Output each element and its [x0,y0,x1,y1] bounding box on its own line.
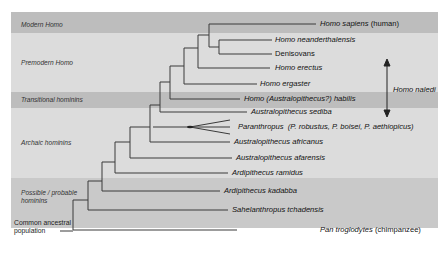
leaf-ardipithecus-kadabba: Ardipithecus kadabba [224,186,297,195]
leaf-homo-sapiens: Homo sapiens (human) [320,19,399,28]
leaf-homo-neanderthalensis: Homo neanderthalensis [275,35,355,44]
leaf-name: Australopithecus africanus [234,137,323,146]
leaf-homo-ergaster: Homo ergaster [260,79,310,88]
leaf-denisovans: Denisovans [275,49,315,58]
leaf-name: Pan troglodytes [320,225,373,234]
leaf-name: Ardipithecus kadabba [224,186,297,195]
leaf-name: Homo sapiens [320,19,369,28]
leaf-name: Denisovans [275,49,315,58]
leaf-name: Australopithecus sediba [251,107,332,116]
leaf-australopithecus-afarensis: Australopithecus afarensis [236,153,325,162]
leaf-paranthropus: Paranthropus (P. robustus, P. boisei, P.… [238,122,414,131]
leaf-common-name: (chimpanzee) [373,225,421,234]
leaf-name: Homo ergaster [260,79,310,88]
leaf-name: Homo (Australopithecus?) habilis [244,94,355,103]
leaf-pan-troglodytes: Pan troglodytes (chimpanzee) [320,225,421,234]
leaf-name: Sahelanthropus tchadensis [232,205,324,214]
leaf-name: Australopithecus afarensis [236,153,325,162]
phylogeny-diagram: Modern Homo Premodern Homo Transitional … [0,0,447,254]
leaf-australopithecus-africanus: Australopithecus africanus [234,137,323,146]
leaf-name: Ardipithecus ramidus [232,168,303,177]
leaf-name: Paranthropus (P. robustus, P. boisei, P.… [238,122,414,131]
leaf-homo-habilis: Homo (Australopithecus?) habilis [244,94,355,103]
homo-naledi-label: Homo naledi [393,85,436,94]
leaf-name: Homo neanderthalensis [275,35,355,44]
leaf-name: Homo erectus [275,63,322,72]
leaf-australopithecus-sediba: Australopithecus sediba [251,107,332,116]
leaf-ardipithecus-ramidus: Ardipithecus ramidus [232,168,303,177]
leaf-homo-erectus: Homo erectus [275,63,322,72]
leaf-common-name: (human) [369,19,399,28]
leaf-sahelanthropus-tchadensis: Sahelanthropus tchadensis [232,205,324,214]
